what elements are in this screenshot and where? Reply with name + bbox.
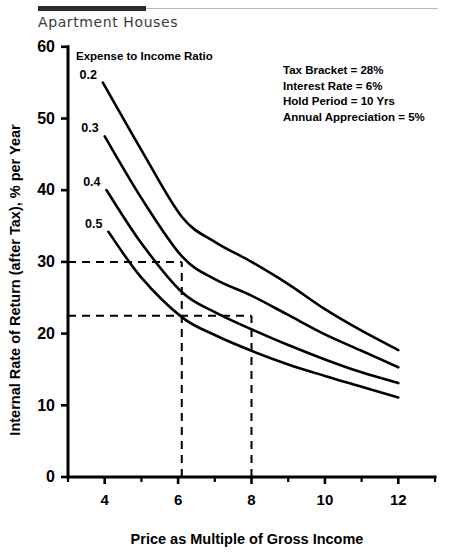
y-tick-label-30: 30: [37, 253, 55, 270]
y-tick-label-50: 50: [37, 110, 55, 127]
series-label-0.2: 0.2: [79, 68, 96, 82]
x-tick-label-4: 4: [101, 491, 110, 508]
chart-plot-area: 0102030405060 4681012 0.20.30.40.5 Expen…: [0, 0, 449, 553]
reference-lines-group: [68, 262, 252, 477]
annotation-line-1: Tax Bracket = 28%: [283, 64, 383, 76]
y-tick-label-0: 0: [46, 468, 55, 485]
annotation-line-3: Hold Period = 10 Yrs: [283, 95, 395, 107]
figure-page: Apartment Houses 0102030405060 4681012 0…: [0, 0, 449, 553]
data-curves-group: [103, 83, 398, 398]
curve-ratio-0.2: [103, 83, 398, 350]
y-axis-tick-labels: 0102030405060: [37, 38, 55, 485]
x-tick-label-6: 6: [174, 491, 182, 508]
x-axis-tick-labels: 4681012: [101, 491, 407, 508]
y-tick-label-10: 10: [37, 397, 55, 414]
y-axis-title: Internal Rate of Return (after Tax), % p…: [7, 124, 23, 436]
x-tick-label-10: 10: [317, 491, 334, 508]
y-tick-label-40: 40: [37, 181, 55, 198]
annotation-line-2: Interest Rate = 6%: [283, 80, 382, 92]
annotation-line-4: Annual Appreciation = 5%: [283, 111, 425, 123]
legend-title: Expense to Income Ratio: [76, 50, 213, 62]
x-tick-label-12: 12: [390, 491, 407, 508]
annotation-block: Tax Bracket = 28%Interest Rate = 6%Hold …: [283, 64, 425, 123]
x-axis-title: Price as Multiple of Gross Income: [131, 531, 364, 547]
y-tick-label-20: 20: [37, 325, 55, 342]
x-tick-label-8: 8: [247, 491, 255, 508]
series-label-0.3: 0.3: [81, 121, 98, 135]
series-labels-group: 0.20.30.40.5: [79, 68, 102, 231]
series-label-0.5: 0.5: [85, 217, 102, 231]
y-tick-label-60: 60: [37, 38, 55, 55]
series-label-0.4: 0.4: [83, 175, 100, 189]
